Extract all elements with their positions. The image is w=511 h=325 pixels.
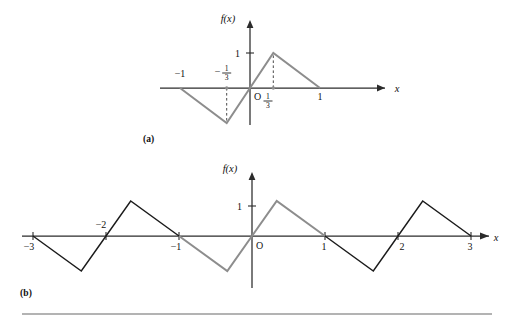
panel-a-minus-third-denominator: 3 <box>225 73 229 82</box>
panel-a-x-tick-label-minus-1: −1 <box>175 68 186 79</box>
panel-a-x-axis-label: x <box>394 83 400 94</box>
panel-a-x-tick-label-one-third: 1 3 <box>264 92 273 110</box>
panel-a-third-numerator: 1 <box>266 92 270 101</box>
panel-a-y-axis-arrow <box>247 20 254 28</box>
panel-b-x-axis-label: x <box>493 232 499 243</box>
panel-b-caption: (b) <box>20 288 32 298</box>
panel-b-x-tick-label-2: 2 <box>400 241 405 252</box>
panel-b-y-axis-label: f(x) <box>223 163 238 175</box>
panel-b-x-tick-label-minus-3: −3 <box>24 241 35 252</box>
panel-b-x-tick-label-1: 1 <box>322 241 327 252</box>
panel-a-caption: (a) <box>143 134 154 144</box>
panel-b-group: f(x) x 1 O −3 −2 −1 1 2 3 <box>22 163 499 288</box>
panel-a-group: f(x) x 1 O −1 1 − 1 3 1 3 <box>160 13 400 125</box>
panel-a-minus-sign: − <box>215 66 221 77</box>
panel-a-dot-neg-third <box>225 86 228 89</box>
panel-b-x-tick-label-minus-2: −2 <box>96 219 107 230</box>
panel-b-x-tick-label-3: 3 <box>468 241 473 252</box>
panel-a-minus-third-numerator: 1 <box>225 64 229 73</box>
panel-a-x-axis-arrow <box>377 85 385 92</box>
panel-a-dot-pos-third <box>272 86 275 89</box>
panel-a-y-tick-label-1: 1 <box>235 48 240 59</box>
panel-b-y-axis-arrow <box>249 172 256 180</box>
panel-b-x-tick-label-minus-1: −1 <box>171 241 182 252</box>
panel-a-origin-label: O <box>254 91 261 102</box>
panel-a-third-denominator: 3 <box>266 101 270 110</box>
panel-b-x-axis-arrow <box>480 232 489 239</box>
panel-b-origin-label: O <box>256 240 263 251</box>
panel-a-x-tick-label-minus-one-third: − 1 3 <box>215 64 232 82</box>
figure-svg: f(x) x 1 O −1 1 − 1 3 1 3 <box>0 0 511 325</box>
math-figure: f(x) x 1 O −1 1 − 1 3 1 3 <box>0 0 511 325</box>
panel-b-y-tick-label-1: 1 <box>237 201 242 212</box>
panel-a-y-axis-label: f(x) <box>221 13 236 25</box>
panel-a-x-tick-label-1: 1 <box>318 91 323 102</box>
